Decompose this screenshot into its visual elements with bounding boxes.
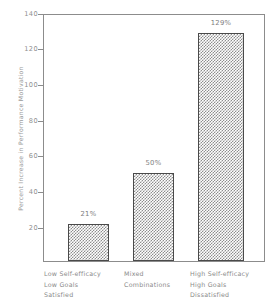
category-label-1-line2: Low Goals xyxy=(44,280,101,291)
category-label-3-line3: Dissatisfied xyxy=(190,290,249,301)
y-tick-label-40: 40 xyxy=(16,189,38,196)
bar-value-label-2: 50% xyxy=(133,159,174,167)
y-axis-tick-labels: 140 120 100 80 60 40 20 xyxy=(12,0,38,306)
bars-layer: 21% 50% 129% xyxy=(43,14,265,262)
y-tick-label-100: 100 xyxy=(16,82,38,89)
y-tick-label-80: 80 xyxy=(16,118,38,125)
y-tick-label-120: 120 xyxy=(16,46,38,53)
y-tick-label-20: 20 xyxy=(16,225,38,232)
category-label-1-line1: Low Self-efficacy xyxy=(44,269,101,280)
category-label-2: Mixed Combinations xyxy=(124,269,170,290)
category-label-2-line1: Mixed xyxy=(124,269,170,280)
bar-value-label-1: 21% xyxy=(68,210,109,218)
x-axis-category-labels: Low Self-efficacy Low Goals Satisfied Mi… xyxy=(0,267,277,306)
bar-chart: Percent Increase in Performance Motivati… xyxy=(0,0,277,306)
bar-mixed-combinations xyxy=(133,173,174,261)
bar-high-self-efficacy xyxy=(198,33,244,261)
y-tick-label-140: 140 xyxy=(16,11,38,18)
category-label-3: High Self-efficacy High Goals Dissatisfi… xyxy=(190,269,249,301)
category-label-3-line1: High Self-efficacy xyxy=(190,269,249,280)
category-label-1: Low Self-efficacy Low Goals Satisfied xyxy=(44,269,101,301)
y-tick-label-60: 60 xyxy=(16,153,38,160)
bar-low-self-efficacy xyxy=(68,224,109,261)
category-label-3-line2: High Goals xyxy=(190,280,249,291)
category-label-1-line3: Satisfied xyxy=(44,290,101,301)
category-label-2-line2: Combinations xyxy=(124,280,170,291)
bar-value-label-3: 129% xyxy=(198,19,244,27)
